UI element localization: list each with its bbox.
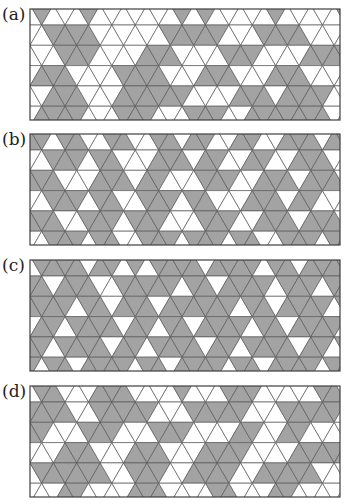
panel-a-tiling [29,8,341,121]
panel-d-label: (d) [2,383,26,400]
panel-a-label: (a) [2,6,25,23]
panel-c-tiling [29,259,341,372]
panel-b-label: (b) [2,131,26,148]
panel-b-tiling [29,133,341,246]
panel-d-tiling [29,385,341,498]
panel-c-label: (c) [2,257,25,274]
